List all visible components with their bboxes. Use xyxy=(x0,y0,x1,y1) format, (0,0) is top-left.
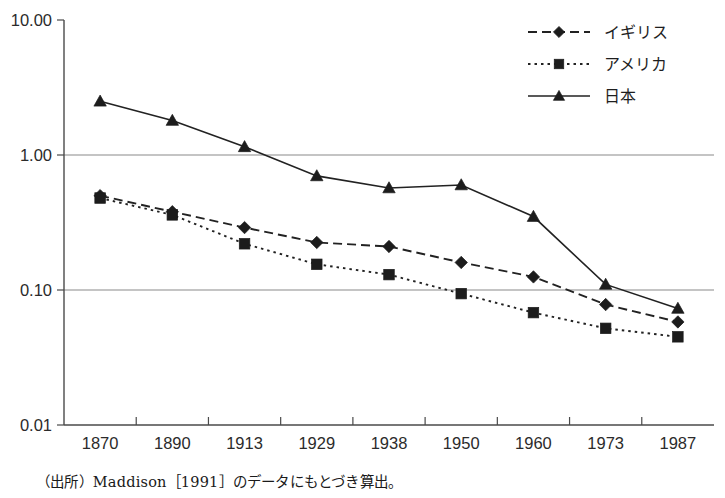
data-point xyxy=(527,210,539,221)
chart-legend: イギリスアメリカ日本 xyxy=(528,23,668,106)
y-axis xyxy=(57,20,64,425)
data-point xyxy=(95,193,106,204)
log-line-chart: 10.001.000.100.01 1870189019131929193819… xyxy=(0,0,725,498)
data-point xyxy=(312,259,323,270)
x-axis-label-1870: 1870 xyxy=(82,434,119,452)
data-point xyxy=(238,221,250,233)
data-point xyxy=(673,332,684,343)
x-axis-label-1987: 1987 xyxy=(660,434,697,452)
data-point xyxy=(239,239,250,250)
data-point xyxy=(384,269,395,280)
data-point xyxy=(238,141,250,152)
data-point xyxy=(455,256,467,268)
x-axis xyxy=(64,417,714,425)
data-point xyxy=(455,179,467,190)
x-axis-label-1890: 1890 xyxy=(154,434,191,452)
data-point xyxy=(167,210,178,221)
data-point xyxy=(311,236,323,248)
data-point xyxy=(311,170,323,181)
x-axis-label-1929: 1929 xyxy=(298,434,335,452)
series-lines xyxy=(100,101,678,337)
legend-label-2: 日本 xyxy=(604,87,636,106)
chart-figure: 10.001.000.100.01 1870189019131929193819… xyxy=(0,0,725,498)
legend-marker-diamond xyxy=(553,26,564,37)
data-point xyxy=(94,95,106,106)
data-point xyxy=(383,240,395,252)
series-line-0 xyxy=(100,196,678,322)
y-tick-labels: 10.001.000.100.01 xyxy=(11,11,52,434)
x-axis-label-1938: 1938 xyxy=(371,434,408,452)
legend-label-0: イギリス xyxy=(604,23,668,42)
x-axis-label-1913: 1913 xyxy=(226,434,263,452)
data-point xyxy=(600,323,611,334)
y-axis-label-1.00: 1.00 xyxy=(20,146,52,164)
data-point xyxy=(456,288,467,299)
data-point xyxy=(672,316,684,328)
x-axis-label-1950: 1950 xyxy=(443,434,480,452)
y-axis-label-0.01: 0.01 xyxy=(20,416,52,434)
x-axis-label-1973: 1973 xyxy=(587,434,624,452)
data-point xyxy=(599,298,611,310)
data-point xyxy=(527,271,539,283)
x-tick-labels: 187018901913192919381950196019731987 xyxy=(82,434,696,452)
y-axis-label-0.10: 0.10 xyxy=(20,281,52,299)
data-point xyxy=(528,307,539,318)
legend-marker-square xyxy=(554,59,564,69)
source-note: （出所）Maddison［1991］のデータにもとづき算出。 xyxy=(36,470,402,491)
x-axis-label-1960: 1960 xyxy=(515,434,552,452)
y-axis-label-10.00: 10.00 xyxy=(11,11,52,29)
legend-label-1: アメリカ xyxy=(604,55,667,74)
series-line-1 xyxy=(100,198,678,337)
